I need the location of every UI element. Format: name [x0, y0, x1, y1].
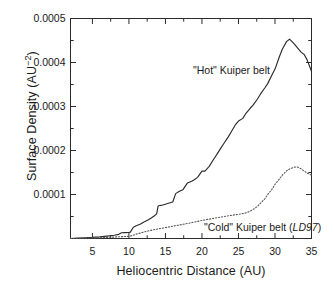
x-tick-label: 15 [145, 245, 185, 257]
y-tick-label: 0.0001 [0, 188, 66, 200]
axis-ticks [71, 19, 312, 239]
x-tick-label: 20 [182, 245, 222, 257]
data-series [71, 39, 312, 238]
chart-figure: Surface Density (AU−2) Heliocentric Dist… [0, 0, 334, 288]
x-tick-label: 25 [218, 245, 258, 257]
y-tick-label: 0.0002 [0, 144, 66, 156]
cold-annotation-suffix: ) [318, 221, 322, 233]
series-annotation-hot: "Hot" Kuiper belt [193, 64, 270, 76]
y-axis-title-text: Surface Density (AU [25, 66, 39, 181]
cold-annotation-prefix: "Cold" Kuiper belt ( [204, 221, 293, 233]
series-annotation-cold: "Cold" Kuiper belt (LD97) [204, 221, 321, 233]
y-tick-label: 0.0003 [0, 100, 66, 112]
series-line-hot [71, 39, 312, 238]
x-tick-label: 30 [255, 245, 295, 257]
y-tick-label: 0.0004 [0, 56, 66, 68]
x-tick-label: 35 [292, 245, 332, 257]
plot-frame [71, 19, 312, 239]
cold-annotation-reference: LD97 [293, 221, 318, 233]
x-tick-label: 10 [109, 245, 149, 257]
y-tick-label: 0.0005 [0, 12, 66, 24]
x-axis-title: Heliocentric Distance (AU) [70, 264, 312, 278]
x-tick-label: 5 [72, 245, 112, 257]
y-axis-title: Surface Density (AU−2) [23, 16, 39, 216]
